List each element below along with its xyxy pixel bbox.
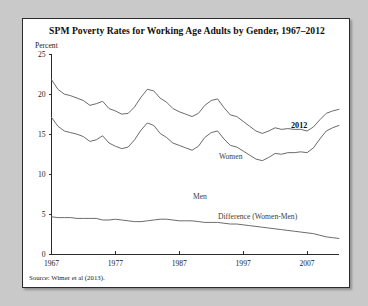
x-tick-label: 1997: [236, 259, 251, 268]
x-tick-label: 1987: [172, 259, 187, 268]
source-note: Source: Wimer et al (2013).: [29, 274, 105, 281]
x-axis-ticks: 19671977198719972007: [44, 251, 315, 268]
y-tick-label: 10: [38, 170, 46, 179]
y-tick-label: 15: [38, 130, 46, 139]
series-label-women: Women: [219, 152, 243, 161]
x-axis: 19671977198719972007: [44, 251, 339, 268]
end-year-label: 2012: [291, 121, 307, 130]
series-label-difference: Difference (Women-Men): [218, 212, 298, 221]
y-axis-ticks: 0510152025: [38, 50, 52, 260]
chart-plot-area: 0510152025 19671977198719972007 Women Me…: [23, 19, 351, 289]
x-tick-label: 2007: [299, 259, 314, 268]
y-tick-label: 25: [38, 50, 46, 59]
figure-panel: SPM Poverty Rates for Working Age Adults…: [22, 18, 350, 288]
y-tick-label: 5: [42, 210, 46, 219]
x-tick-label: 1977: [108, 259, 123, 268]
y-tick-label: 20: [38, 90, 46, 99]
y-axis: 0510152025: [38, 50, 52, 260]
x-tick-label: 1967: [44, 259, 59, 268]
series-label-men: Men: [193, 192, 207, 201]
